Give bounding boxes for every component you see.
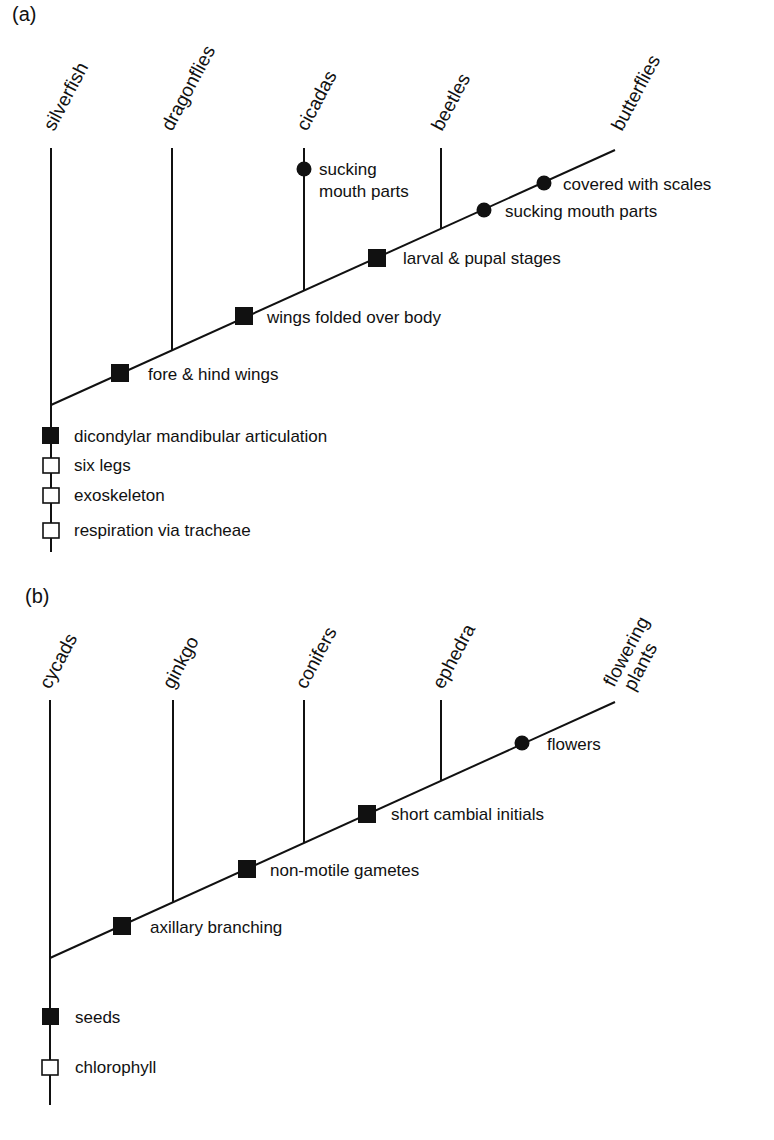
open-square-marker-icon — [42, 1060, 58, 1075]
filled-circle-marker-icon — [477, 203, 492, 218]
taxon-silverfish: silverfish — [39, 59, 92, 134]
filled-circle-marker-icon — [537, 176, 552, 191]
character-axillary-branching: axillary branching — [150, 918, 282, 937]
filled-square-marker-icon — [113, 917, 131, 935]
filled-square-marker-icon — [42, 1008, 59, 1025]
root-character-seeds: seeds — [75, 1008, 120, 1027]
filled-square-marker-icon — [111, 364, 129, 382]
character-larval-pupal: larval & pupal stages — [403, 249, 561, 268]
character-fore-hind-wings: fore & hind wings — [148, 365, 278, 384]
filled-square-marker-icon — [368, 249, 386, 267]
root-character-tracheae: respiration via tracheae — [74, 521, 251, 540]
root-character-chlorophyll: chlorophyll — [75, 1058, 156, 1077]
character-covered-scales: covered with scales — [563, 175, 711, 194]
panel-a: (a) silverfish dragonflies cicadas beetl… — [12, 3, 711, 552]
cicada-character-line2: mouth parts — [319, 182, 409, 201]
root-character-six-legs: six legs — [74, 456, 131, 475]
filled-circle-marker-icon — [297, 162, 312, 177]
taxon-cycads: cycads — [35, 630, 81, 692]
character-flowers: flowers — [547, 735, 601, 754]
taxon-ginkgo: ginkgo — [158, 633, 203, 692]
cicada-character-line1: sucking — [319, 160, 377, 179]
root-character-dicondylar: dicondylar mandibular articulation — [74, 427, 327, 446]
taxon-ephedra: ephedra — [428, 620, 479, 692]
filled-circle-marker-icon — [515, 736, 530, 751]
filled-square-marker-icon — [42, 427, 59, 444]
panel-a-label: (a) — [12, 3, 36, 25]
taxon-butterflies: butterflies — [607, 51, 664, 134]
taxon-dragonflies: dragonflies — [157, 42, 219, 134]
cladogram-figure: (a) silverfish dragonflies cicadas beetl… — [0, 0, 774, 1140]
character-non-motile-gametes: non-motile gametes — [270, 861, 419, 880]
main-diagonal — [50, 702, 615, 958]
open-square-marker-icon — [43, 458, 59, 473]
root-character-exoskeleton: exoskeleton — [74, 486, 165, 505]
open-square-marker-icon — [43, 488, 59, 503]
taxon-cicadas: cicadas — [292, 67, 341, 134]
filled-square-marker-icon — [235, 307, 253, 325]
taxon-conifers: conifers — [291, 623, 341, 692]
panel-b: (b) cycads ginkgo conifers ephedra flowe… — [25, 585, 661, 1105]
open-square-marker-icon — [43, 523, 59, 538]
character-sucking-mouth-parts: sucking mouth parts — [505, 202, 657, 221]
filled-square-marker-icon — [358, 805, 376, 823]
character-wings-folded: wings folded over body — [266, 308, 441, 327]
filled-square-marker-icon — [238, 860, 256, 878]
character-short-cambial: short cambial initials — [391, 805, 544, 824]
panel-b-label: (b) — [25, 585, 49, 607]
taxon-beetles: beetles — [427, 70, 474, 134]
